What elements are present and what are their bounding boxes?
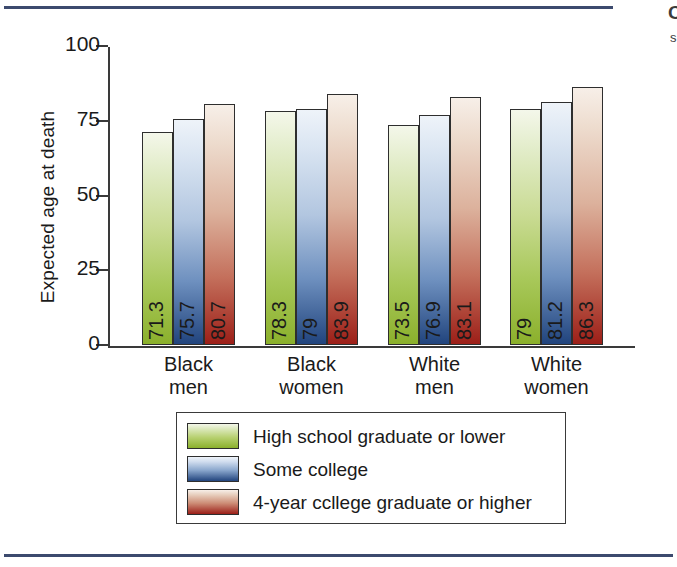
x-axis-line <box>108 346 635 348</box>
x-category-label-line1: White <box>531 353 582 375</box>
y-axis-title: Expected age at death <box>37 67 59 347</box>
x-category-label-line2: women <box>480 376 633 399</box>
x-category-label-line1: White <box>409 353 460 375</box>
bar-group-white-women: 7981.286.3 <box>510 46 603 345</box>
bar[interactable]: 79 <box>296 109 327 345</box>
chart-legend: High school graduate or lowerSome colleg… <box>176 412 566 524</box>
legend-label: High school graduate or lower <box>253 427 505 446</box>
bar-value-label: 81.2 <box>545 301 565 340</box>
bar[interactable]: 76.9 <box>419 115 450 345</box>
x-category-label-line1: Black <box>164 353 213 375</box>
bar[interactable]: 75.7 <box>173 119 204 345</box>
bar[interactable]: 78.3 <box>265 111 296 345</box>
y-tick-label: 75 <box>77 108 100 129</box>
y-tick-label: 100 <box>65 33 100 54</box>
bar[interactable]: 73.5 <box>388 125 419 345</box>
legend-swatch <box>187 456 239 482</box>
legend-item[interactable]: Some college <box>187 453 565 485</box>
bar-value-label: 86.3 <box>576 301 596 340</box>
bar-value-label: 71.3 <box>146 301 166 340</box>
legend-rows: High school graduate or lowerSome colleg… <box>187 420 565 518</box>
legend-swatch <box>187 489 239 515</box>
bar[interactable]: 80.7 <box>204 104 235 345</box>
y-tick-label: 0 <box>88 332 100 353</box>
y-tick-label: 25 <box>77 257 100 278</box>
bar-value-label: 79 <box>514 318 534 340</box>
bar-chart-figure: Expected age at death 0255075100 71.375.… <box>0 0 677 567</box>
bar[interactable]: 79 <box>510 109 541 345</box>
bar-group-black-women: 78.37983.9 <box>265 46 358 345</box>
bar-value-label: 76.9 <box>423 301 443 340</box>
bar-value-label: 78.3 <box>269 301 289 340</box>
legend-swatch <box>187 423 239 449</box>
bar-value-label: 73.5 <box>392 301 412 340</box>
plot-area: 0255075100 71.375.780.778.37983.973.576.… <box>108 47 635 347</box>
bar[interactable]: 83.1 <box>450 97 481 345</box>
bar[interactable]: 83.9 <box>327 94 358 345</box>
legend-item[interactable]: High school graduate or lower <box>187 420 565 452</box>
bar-group-black-men: 71.375.780.7 <box>142 46 235 345</box>
bar[interactable]: 86.3 <box>572 87 603 345</box>
bar[interactable]: 71.3 <box>142 132 173 345</box>
bar-value-label: 79 <box>300 318 320 340</box>
legend-item[interactable]: 4-year ccllege graduate or higher <box>187 486 565 518</box>
legend-label: 4-year ccllege graduate or higher <box>253 493 532 512</box>
bar-group-white-men: 73.576.983.1 <box>388 46 481 345</box>
bar-value-label: 83.1 <box>454 301 474 340</box>
bar-value-label: 80.7 <box>208 301 228 340</box>
y-axis-line <box>108 47 110 348</box>
bar-value-label: 83.9 <box>331 301 351 340</box>
y-tick-label: 50 <box>77 183 100 204</box>
bar-value-label: 75.7 <box>177 301 197 340</box>
legend-label: Some college <box>253 460 368 479</box>
bar[interactable]: 81.2 <box>541 102 572 345</box>
x-category-label: Whitewomen <box>480 353 633 399</box>
x-category-label-line1: Black <box>287 353 336 375</box>
